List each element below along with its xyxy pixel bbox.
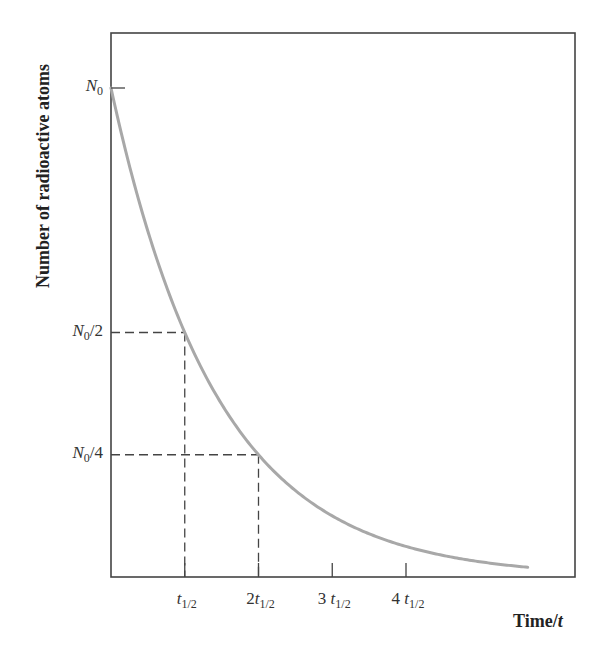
x-axis-title: Time/t	[513, 611, 563, 632]
y-tick-label: N0/2	[23, 321, 103, 344]
half-life-guides	[111, 333, 259, 578]
x-tick-label: t1/2	[177, 589, 197, 612]
decay-curve	[111, 88, 528, 567]
decay-curve-path	[111, 88, 528, 567]
x-tick-label: 3 t1/2	[318, 589, 351, 612]
y-tick-label: N0/4	[23, 443, 103, 466]
x-tick-label: 4 t1/2	[392, 589, 425, 612]
x-tick-label: 2t1/2	[246, 589, 275, 612]
x-axis-title-var: t	[558, 611, 563, 631]
plot-frame	[111, 33, 575, 577]
plot-border	[111, 33, 575, 577]
x-axis-title-main: Time/	[513, 611, 558, 631]
y-axis-title: Number of radioactive atoms	[33, 64, 54, 288]
